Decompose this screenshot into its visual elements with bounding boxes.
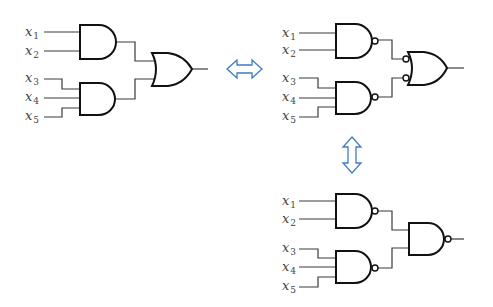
- wire-nand1-to-nand3: [378, 211, 409, 230]
- circuit-nand-negated-or: x1 x2 x3 x4 x5: [282, 24, 464, 125]
- nand-gate-2: [336, 251, 371, 283]
- nand-gate-1-bubble: [372, 38, 378, 44]
- svg-text:x2: x2: [282, 211, 296, 228]
- equivalence-arrow-vertical-icon: [343, 137, 361, 173]
- wire-x5: [299, 277, 336, 287]
- wire-nand2-to-nand3: [378, 248, 409, 268]
- nand-gate-1: [336, 194, 372, 228]
- input-label-x5: x5: [282, 108, 296, 125]
- svg-text:x1: x1: [282, 193, 296, 210]
- equivalence-arrow-horizontal-icon: [227, 60, 262, 78]
- svg-text:x3: x3: [282, 240, 296, 257]
- input-label-x4: x4: [25, 89, 39, 106]
- nand-gate-3-bubble: [445, 236, 451, 242]
- wire-and2-to-or: [116, 79, 155, 99]
- input-label-x1: x1: [25, 24, 39, 41]
- svg-text:x1: x1: [25, 24, 39, 41]
- or-gate: [152, 53, 192, 86]
- and-gate-2: [80, 83, 115, 115]
- input-label-x3: x3: [25, 70, 39, 87]
- or-gate-inverted-inputs: [408, 52, 447, 85]
- circuit-and-or: x1 x2 x3 x4 x5: [25, 24, 208, 125]
- input-label-x2: x2: [25, 43, 39, 60]
- svg-text:x1: x1: [282, 25, 296, 42]
- svg-text:x4: x4: [282, 89, 296, 106]
- and-gate-1: [80, 25, 116, 59]
- svg-text:x2: x2: [25, 43, 39, 60]
- wire-x3: [44, 79, 80, 89]
- nand-gate-1: [336, 24, 372, 58]
- circuit-nand-nand: x1 x2 x3 x4 x5: [282, 193, 464, 295]
- nand-gate-2-bubble: [372, 94, 378, 100]
- wire-x5: [44, 108, 80, 117]
- input-label-x3: x3: [282, 240, 296, 257]
- input-label-x2: x2: [282, 42, 296, 59]
- nand-gate-2: [336, 82, 371, 114]
- nand-gate-2-bubble: [372, 265, 378, 271]
- wire-nand2-to-or: [378, 78, 403, 97]
- svg-text:x4: x4: [25, 89, 39, 106]
- svg-text:x5: x5: [282, 278, 296, 295]
- nand-gate-3: [409, 223, 444, 255]
- input-label-x4: x4: [282, 89, 296, 106]
- wire-x3: [299, 78, 336, 88]
- wire-x5: [299, 107, 336, 117]
- nand-gate-1-bubble: [372, 208, 378, 214]
- or-input-bubble-1: [403, 56, 409, 62]
- input-label-x1: x1: [282, 25, 296, 42]
- svg-text:x2: x2: [282, 42, 296, 59]
- wire-x3: [299, 249, 336, 258]
- or-input-bubble-2: [403, 75, 409, 81]
- input-label-x3: x3: [282, 70, 296, 87]
- wire-and1-to-or: [116, 42, 155, 61]
- svg-text:x4: x4: [282, 259, 296, 276]
- input-label-x5: x5: [282, 278, 296, 295]
- svg-text:x3: x3: [282, 70, 296, 87]
- input-label-x2: x2: [282, 211, 296, 228]
- logic-diagram: x1 x2 x3 x4 x5 x1: [0, 0, 493, 307]
- wire-nand1-to-or: [378, 40, 403, 59]
- input-label-x4: x4: [282, 259, 296, 276]
- input-label-x1: x1: [282, 193, 296, 210]
- svg-text:x5: x5: [282, 108, 296, 125]
- svg-text:x5: x5: [25, 108, 39, 125]
- input-label-x5: x5: [25, 108, 39, 125]
- svg-text:x3: x3: [25, 70, 39, 87]
